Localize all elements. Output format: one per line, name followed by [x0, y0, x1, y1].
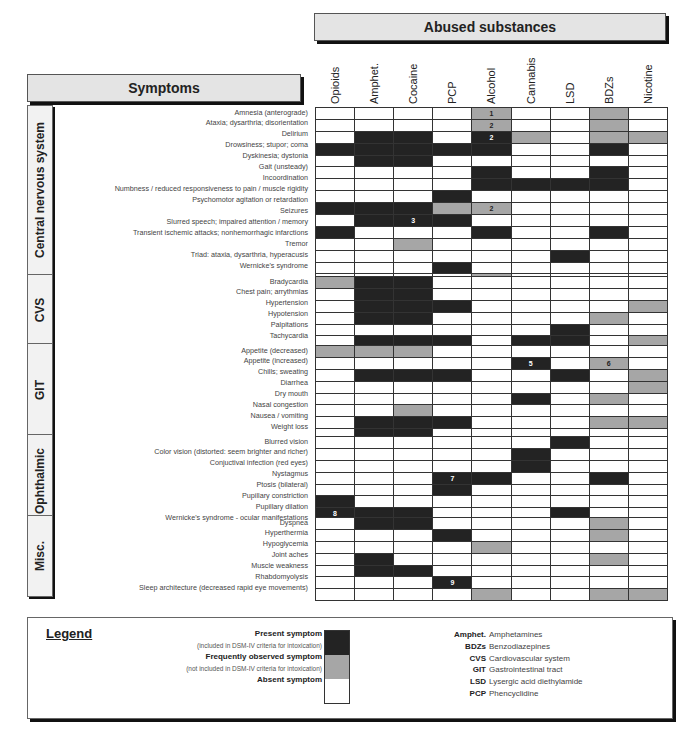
cell-absent [511, 120, 550, 131]
cell-absent [432, 346, 471, 357]
frequent-swatch [325, 655, 349, 679]
symptom-label: Numbness / reduced responsiveness to pai… [115, 184, 308, 195]
cell-absent [316, 313, 354, 324]
cell-absent [550, 215, 589, 226]
cell-present: 7 [432, 473, 471, 484]
cell-present: 5 [511, 358, 550, 369]
symptom-label: Seizures [280, 206, 308, 217]
cell-present [511, 179, 550, 190]
category-label: Misc. [33, 541, 47, 571]
cell-present: 3 [393, 215, 432, 226]
cell-frequent [589, 313, 628, 324]
cell-absent [550, 239, 589, 250]
cell-absent [432, 325, 471, 336]
table-row [316, 484, 667, 496]
cell-absent [550, 405, 589, 416]
cell-present [471, 144, 510, 155]
cell-absent [432, 461, 471, 472]
symptoms-header: Symptoms [27, 74, 301, 102]
cell-absent [589, 325, 628, 336]
cell-absent [432, 132, 471, 143]
cell-absent [393, 325, 432, 336]
cell-absent [628, 167, 667, 178]
cell-absent [393, 263, 432, 274]
table-row [316, 190, 667, 202]
cell-absent [511, 313, 550, 324]
cell-absent [511, 277, 550, 288]
cell-present [432, 417, 471, 428]
cell-absent [471, 301, 510, 312]
cell-frequent [628, 382, 667, 393]
table-row [316, 393, 667, 405]
cell-absent [316, 156, 354, 167]
symptom-label: Psychomotor agitation or retardation [192, 195, 308, 206]
symptom-label: Delirium [282, 129, 308, 140]
cell-absent [432, 589, 471, 600]
table-row [316, 143, 667, 155]
abbreviation-key: PCP [436, 688, 489, 700]
cell-absent [316, 566, 354, 577]
cell-absent [550, 156, 589, 167]
cell-absent [589, 263, 628, 274]
symptom-label: Conjuctival infection (red eyes) [210, 458, 308, 469]
cell-present [432, 144, 471, 155]
cell-present [354, 518, 393, 529]
column-label-text: Alcohol [485, 68, 497, 104]
column-label-opioids: Opioids [315, 52, 354, 104]
cell-absent [354, 179, 393, 190]
cell-present [316, 203, 354, 214]
cell-absent [393, 496, 432, 507]
cell-absent [316, 518, 354, 529]
symptom-label: Tremor [285, 239, 308, 250]
cell-present [393, 203, 432, 214]
cell-present [354, 144, 393, 155]
cell-present [511, 449, 550, 460]
cell-frequent [589, 108, 628, 119]
category-label: CVS [33, 297, 47, 322]
column-label-amphet: Amphet. [354, 52, 393, 104]
cell-absent [316, 473, 354, 484]
table-row [316, 541, 667, 553]
cell-absent [589, 577, 628, 588]
cell-absent [589, 566, 628, 577]
cell-absent [471, 191, 510, 202]
cell-absent [316, 485, 354, 496]
cell-absent [316, 289, 354, 300]
cell-absent [471, 358, 510, 369]
symptom-label: Hyperthermia [265, 528, 308, 539]
cell-absent [511, 518, 550, 529]
cell-absent [432, 179, 471, 190]
cell-absent [511, 325, 550, 336]
cell-absent [471, 417, 510, 428]
abbreviation-row: Amphet.Amphetamines [436, 629, 583, 641]
column-label-text: LSD [564, 83, 576, 104]
cell-absent [393, 449, 432, 460]
cell-absent [628, 239, 667, 250]
symptom-label: Blurred vision [264, 437, 308, 448]
cell-absent [589, 461, 628, 472]
cell-absent [550, 144, 589, 155]
cell-frequent: 2 [471, 120, 510, 131]
cell-absent [511, 437, 550, 448]
cell-frequent [354, 346, 393, 357]
cell-absent [550, 382, 589, 393]
cell-absent [354, 496, 393, 507]
cell-present [354, 203, 393, 214]
cell-present [550, 179, 589, 190]
table-row [316, 312, 667, 324]
cell-present [393, 277, 432, 288]
cell-frequent [628, 589, 667, 600]
cell-absent [589, 382, 628, 393]
cell-absent [432, 566, 471, 577]
cell-absent [432, 449, 471, 460]
cell-absent [589, 346, 628, 357]
cell-absent [432, 542, 471, 553]
cell-present [393, 132, 432, 143]
category-label: GIT [33, 380, 47, 400]
abbreviation-row: GITGastrointestinal tract [436, 664, 583, 676]
cell-absent [432, 167, 471, 178]
cell-absent [589, 277, 628, 288]
cell-absent [628, 120, 667, 131]
cell-present [471, 227, 510, 238]
table-row [316, 381, 667, 393]
